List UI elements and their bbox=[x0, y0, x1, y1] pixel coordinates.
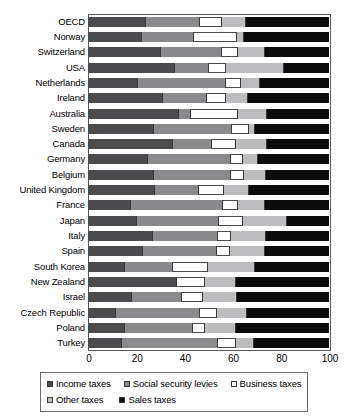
bar-segment-income bbox=[88, 246, 142, 256]
bar-segment-social bbox=[131, 292, 180, 302]
bar-segment-other bbox=[242, 154, 256, 164]
bar-segment-other bbox=[204, 277, 235, 287]
bar-segment-other bbox=[237, 200, 264, 210]
bar-segment-sales bbox=[264, 246, 329, 256]
bar-row-label: Germany bbox=[0, 154, 88, 164]
bar-segment-social bbox=[154, 185, 197, 195]
bar-row: Ireland bbox=[0, 91, 346, 106]
bar-segment-business bbox=[221, 47, 238, 57]
bar-segment-income bbox=[88, 323, 124, 333]
stacked-bar bbox=[88, 338, 329, 348]
bar-segment-social bbox=[174, 63, 209, 73]
stacked-bar bbox=[88, 200, 329, 210]
legend-swatch-income-taxes bbox=[47, 381, 53, 387]
stacked-bar bbox=[88, 231, 329, 241]
bar-segment-social bbox=[152, 231, 217, 241]
legend-item[interactable]: Income taxes bbox=[47, 379, 111, 389]
x-axis: 020406080100 bbox=[88, 351, 331, 371]
bar-segment-income bbox=[88, 139, 172, 149]
bar-segment-sales bbox=[254, 124, 329, 134]
x-axis-tick-label: 0 bbox=[86, 353, 92, 364]
bar-segment-income bbox=[88, 292, 131, 302]
bar-row: Turkey bbox=[0, 336, 346, 351]
stacked-bar bbox=[88, 63, 329, 73]
legend-item[interactable]: Business taxes bbox=[231, 379, 302, 389]
stacked-bar bbox=[88, 323, 329, 333]
bar-segment-social bbox=[136, 216, 218, 226]
bar-segment-social bbox=[121, 338, 217, 348]
bar-row-label: Canada bbox=[0, 139, 88, 149]
legend-row-primary: Income taxesSocial security leviesBusine… bbox=[47, 376, 302, 392]
stacked-bar bbox=[88, 78, 329, 88]
stacked-bar bbox=[88, 17, 329, 27]
stacked-bar bbox=[88, 109, 329, 119]
bar-segment-business bbox=[172, 262, 207, 272]
bar-row-label: Switzerland bbox=[0, 47, 88, 57]
bar-row: France bbox=[0, 198, 346, 213]
bar-segment-income bbox=[88, 47, 160, 57]
bar-row: South Korea bbox=[0, 259, 346, 274]
bar-segment-social bbox=[145, 17, 199, 27]
bar-segment-other bbox=[204, 323, 235, 333]
bar-segment-other bbox=[225, 93, 247, 103]
legend-item-label: Business taxes bbox=[240, 379, 302, 389]
bar-row-label: France bbox=[0, 200, 88, 210]
bar-rows: OECDNorwaySwitzerlandUSANetherlandsIrela… bbox=[0, 14, 346, 351]
stacked-bar bbox=[88, 154, 329, 164]
bar-segment-social bbox=[147, 154, 230, 164]
bar-segment-sales bbox=[264, 200, 329, 210]
legend-swatch-sales-taxes bbox=[119, 397, 125, 403]
bar-segment-social bbox=[153, 124, 231, 134]
bar-segment-other bbox=[221, 17, 245, 27]
bar-segment-social bbox=[141, 32, 193, 42]
bar-row: Netherlands bbox=[0, 75, 346, 90]
bar-segment-sales bbox=[236, 292, 329, 302]
bar-segment-social bbox=[172, 139, 211, 149]
stacked-bar bbox=[88, 246, 329, 256]
stacked-bar bbox=[88, 124, 329, 134]
bar-row-label: Australia bbox=[0, 109, 88, 119]
stacked-bar bbox=[88, 139, 329, 149]
stacked-bar bbox=[88, 308, 329, 318]
bar-segment-sales bbox=[247, 93, 329, 103]
bar-segment-income bbox=[88, 200, 130, 210]
bar-segment-social bbox=[124, 262, 172, 272]
bar-segment-business bbox=[230, 154, 242, 164]
bar-segment-social bbox=[124, 323, 191, 333]
bar-row-label: South Korea bbox=[0, 262, 88, 272]
bar-row: Belgium bbox=[0, 167, 346, 182]
bar-segment-other bbox=[229, 246, 264, 256]
bar-segment-income bbox=[88, 185, 154, 195]
bar-segment-other bbox=[237, 109, 266, 119]
bar-segment-sales bbox=[245, 17, 329, 27]
bar-row-label: Ireland bbox=[0, 93, 88, 103]
bar-row-label: Sweden bbox=[0, 124, 88, 134]
legend-item[interactable]: Social security levies bbox=[124, 379, 218, 389]
stacked-bar bbox=[88, 216, 329, 226]
bar-segment-other bbox=[243, 170, 265, 180]
bar-segment-business bbox=[216, 246, 229, 256]
bar-segment-business bbox=[208, 63, 225, 73]
bar-segment-sales bbox=[235, 277, 329, 287]
bar-row: Australia bbox=[0, 106, 346, 121]
bar-segment-other bbox=[235, 338, 253, 348]
bar-segment-income bbox=[88, 277, 176, 287]
bar-segment-social bbox=[160, 47, 220, 57]
bar-segment-sales bbox=[264, 47, 329, 57]
legend-item[interactable]: Other taxes bbox=[47, 395, 103, 405]
bar-segment-income bbox=[88, 216, 136, 226]
bar-segment-sales bbox=[283, 63, 329, 73]
bar-segment-social bbox=[162, 93, 207, 103]
bar-segment-business bbox=[190, 109, 237, 119]
bar-segment-sales bbox=[266, 139, 329, 149]
stacked-bar bbox=[88, 292, 329, 302]
bar-row-label: United Kingdom bbox=[0, 185, 88, 195]
x-axis-tick-label: 60 bbox=[228, 353, 239, 364]
legend-item[interactable]: Sales taxes bbox=[119, 395, 175, 405]
bar-row: Switzerland bbox=[0, 45, 346, 60]
bar-row: Canada bbox=[0, 137, 346, 152]
bar-segment-business bbox=[230, 170, 243, 180]
bar-segment-income bbox=[88, 338, 121, 348]
bar-segment-other bbox=[207, 262, 254, 272]
bar-segment-business bbox=[231, 124, 248, 134]
